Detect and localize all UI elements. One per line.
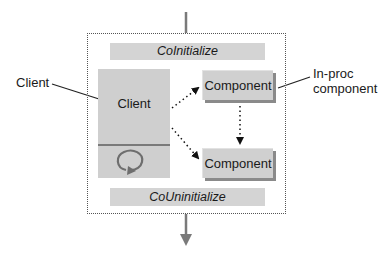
client-callout-label: Client xyxy=(16,75,49,90)
circular-arrow-icon xyxy=(0,0,390,260)
inproc-callout-line2: component xyxy=(313,81,377,96)
component-box-2: Component xyxy=(202,148,273,178)
inproc-callout-line1: In-proc xyxy=(313,66,377,81)
inproc-callout-label: In-proc component xyxy=(313,66,377,96)
couninitialize-bar: CoUninitialize xyxy=(110,188,265,206)
component-box-1: Component xyxy=(202,70,273,100)
